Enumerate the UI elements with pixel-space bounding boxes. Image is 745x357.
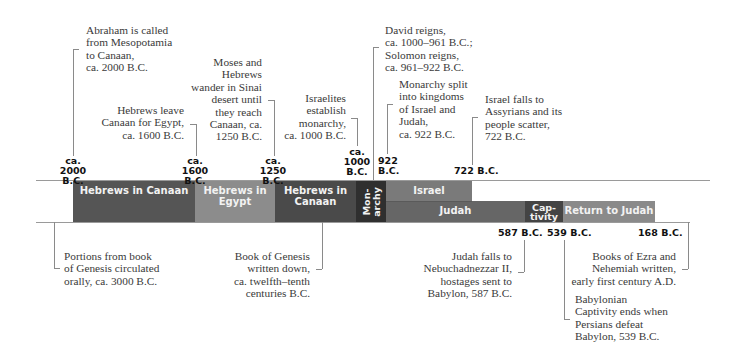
leader-portions	[54, 222, 55, 268]
bar-monarchy: Mon- archy	[356, 181, 386, 222]
bar-hebrews-in-canaan-early: Hebrews in Canaan	[73, 181, 195, 222]
date-1600-bc: ca. 1600 B.C.	[170, 156, 220, 186]
leader-ezra-tick	[682, 269, 688, 270]
event-israel-falls: Israel falls to Assyrians and its people…	[485, 93, 562, 143]
leader-israel-falls	[472, 117, 473, 165]
bar-return-to-judah: Return to Judah	[563, 201, 655, 222]
leader-split	[387, 104, 388, 154]
event-abraham: Abraham is called from Mesopotamia to Ca…	[86, 24, 172, 74]
event-israelites-establish-monarchy: Israelites establish monarchy, ca. 1000 …	[270, 92, 346, 142]
event-david-solomon: David reigns, ca. 1000–961 B.C.; Solomon…	[385, 24, 473, 74]
bar-label: Hebrews in Canaan	[80, 185, 189, 196]
leader-split-tick	[387, 104, 393, 105]
bar-label: Judah	[440, 205, 472, 216]
leader-judah-falls-tick	[518, 272, 524, 273]
date-722-bc: 722 B.C.	[454, 166, 514, 176]
leader-ezra	[688, 222, 689, 269]
bar-captivity: Cap- tivity	[525, 201, 563, 222]
bar-israel: Israel	[386, 181, 472, 201]
event-monarchy-split: Monarchy split into kingdoms of Israel a…	[399, 78, 468, 140]
date-168-bc: 168 B.C.	[638, 228, 688, 238]
event-judah-falls: Judah falls to Nebuchadnezzar II, hostag…	[400, 250, 512, 300]
leader-portions-tick	[54, 268, 60, 269]
bar-label: Return to Judah	[565, 205, 654, 216]
date-539-bc: 539 B.C.	[547, 228, 597, 238]
leader-israel-falls-tick	[472, 117, 478, 118]
leader-judah-falls	[524, 240, 525, 272]
event-hebrews-leave-canaan: Hebrews leave Canaan for Egypt, ca. 1600…	[90, 104, 184, 141]
leader-monarchy	[357, 118, 358, 146]
date-2000-bc: ca. 2000 B.C.	[48, 156, 98, 186]
date-1250-bc: ca. 1250 B.C.	[248, 156, 298, 186]
israel-judah-divider	[386, 201, 472, 202]
event-moses-wander: Moses and Hebrews wander in Sinai desert…	[180, 56, 262, 143]
leader-abraham	[73, 49, 74, 156]
date-587-bc: 587 B.C.	[498, 228, 548, 238]
timeline-bottom-axis	[36, 222, 690, 223]
bar-label: Mon- archy	[362, 187, 381, 217]
leader-abraham-tick	[73, 49, 79, 50]
event-captivity-ends: Babylonian Captivity ends when Persians …	[575, 293, 668, 343]
event-ezra-nehemiah: Books of Ezra and Nehemiah written, earl…	[560, 250, 676, 287]
bar-label: Cap- tivity	[530, 203, 558, 221]
event-genesis-circulated: Portions from book of Genesis circulated…	[64, 250, 159, 287]
leader-david-tick	[373, 47, 379, 48]
leader-genesis	[322, 222, 323, 269]
leader-captivity-ends-tick	[564, 319, 570, 320]
bar-label: Hebrews in Canaan	[284, 185, 347, 207]
bar-label: Hebrews in Egypt	[203, 185, 266, 207]
leader-david	[373, 47, 374, 180]
date-922-bc: 922 B.C.	[378, 156, 406, 176]
bar-hebrews-in-egypt: Hebrews in Egypt	[195, 181, 275, 222]
bar-label: Israel	[413, 185, 445, 196]
bar-hebrews-in-canaan-late: Hebrews in Canaan	[275, 181, 356, 222]
event-genesis-written: Book of Genesis written down, ca. twelft…	[210, 250, 310, 300]
bar-judah: Judah	[386, 201, 525, 222]
date-1000-bc: ca. 1000 B.C.	[343, 147, 371, 177]
leader-genesis-tick	[316, 269, 322, 270]
leader-monarchy-tick	[351, 118, 357, 119]
